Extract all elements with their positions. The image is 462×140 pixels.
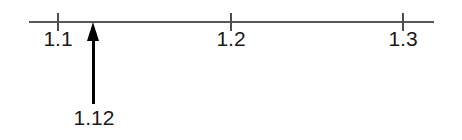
- value-pointer-arrow: [87, 22, 100, 104]
- arrow-shaft: [92, 39, 95, 104]
- axis-tick-label-1-1: 1.1: [43, 28, 72, 50]
- number-line-diagram: 1.1 1.2 1.3 1.12: [0, 0, 462, 140]
- pointer-value-label: 1.12: [74, 106, 115, 130]
- axis-tick-label-1-3: 1.3: [388, 28, 417, 50]
- axis-tick-label-1-2: 1.2: [216, 28, 245, 50]
